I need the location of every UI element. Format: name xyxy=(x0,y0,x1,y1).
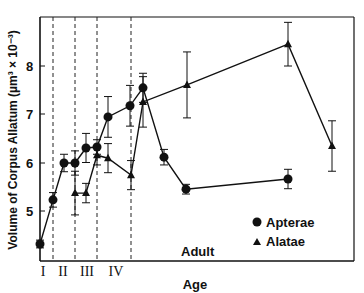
stage-label-4: IV xyxy=(109,264,124,279)
data-point-triangle xyxy=(71,189,79,197)
legend-circle-icon xyxy=(253,218,262,227)
stage-label-3: III xyxy=(80,264,94,279)
data-point-circle xyxy=(160,153,169,162)
data-point-triangle xyxy=(284,40,292,48)
data-point-triangle xyxy=(82,189,90,197)
data-point-circle xyxy=(126,101,135,110)
legend-alatae: Alatae xyxy=(266,234,305,249)
stage-label-2: II xyxy=(58,264,68,279)
y-tick-8: 8 xyxy=(26,59,33,74)
legend-triangle-icon xyxy=(253,238,261,245)
x-axis-label: Age xyxy=(183,277,208,292)
data-point-circle xyxy=(60,159,69,168)
chart: 8 7 6 5 Volume of Corpus Allatum (µm³ × … xyxy=(0,0,364,293)
series-line xyxy=(75,44,332,193)
y-tick-7: 7 xyxy=(26,107,33,122)
data-point-circle xyxy=(49,195,58,204)
data-point-circle xyxy=(284,175,293,184)
adult-label: Adult xyxy=(181,244,215,259)
y-ticks: 8 7 6 5 xyxy=(26,59,45,219)
legend-apterae: Apterae xyxy=(266,215,314,230)
stage-boundaries xyxy=(53,17,131,261)
y-axis-label: Volume of Corpus Allatum (µm³ × 10⁻³) xyxy=(6,30,20,249)
data-point-circle xyxy=(182,185,191,194)
y-tick-5: 5 xyxy=(26,204,33,219)
data-point-circle xyxy=(71,159,80,168)
legend: Apterae Alatae xyxy=(253,215,315,249)
data-point-circle xyxy=(36,239,45,248)
data-point-triangle xyxy=(328,142,336,150)
data-point-circle xyxy=(104,112,113,121)
data-point-triangle xyxy=(127,171,135,179)
stage-label-1: I xyxy=(41,264,46,279)
data-point-circle xyxy=(82,143,91,152)
y-tick-6: 6 xyxy=(26,156,33,171)
